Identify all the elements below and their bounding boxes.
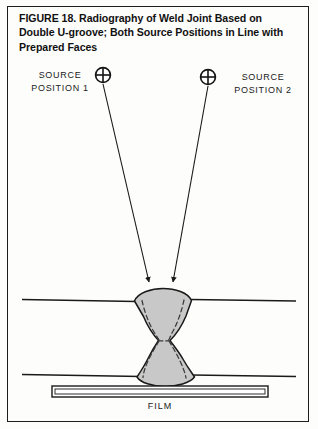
ray-from-source-2 [173,86,208,282]
source-position-2-marker [201,70,216,85]
film-label: FILM [120,401,200,411]
top-plate-line-left [22,300,136,302]
top-plate-line-right [191,300,296,302]
bottom-plate-line-right [192,375,296,377]
film-strip [52,386,268,397]
source-position-2-label: SOURCE POSITION 2 [226,71,300,96]
figure-page: FIGURE 18. Radiography of Weld Joint Bas… [0,0,318,429]
bottom-plate-line-left [22,375,141,377]
weld-joint-double-u-groove [135,289,195,387]
source-position-1-label: SOURCE POSITION 1 [24,69,96,94]
radiography-diagram [0,0,318,429]
ray-from-source-1 [103,84,149,282]
source-position-1-marker [96,68,111,83]
radiation-ray-group [103,84,208,282]
film-inner-rect [55,389,265,394]
